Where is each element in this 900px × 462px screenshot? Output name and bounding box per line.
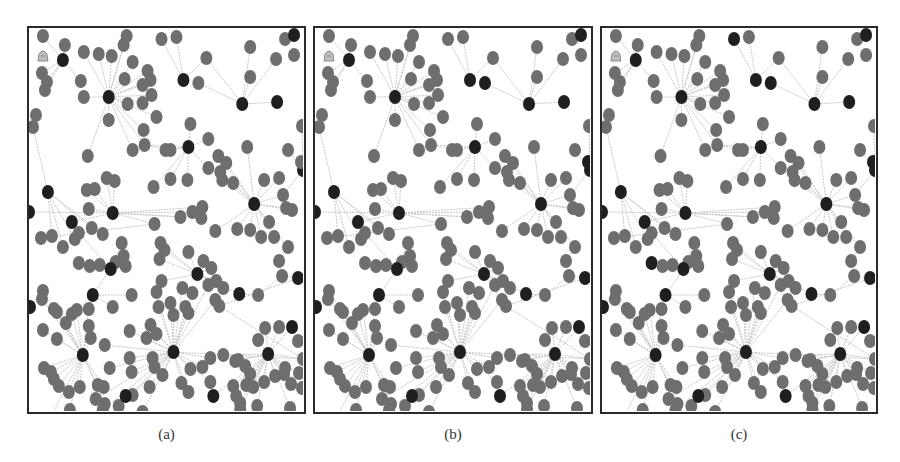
graph-node [182, 245, 194, 259]
graph-node-dark [582, 155, 590, 169]
graph-node [279, 361, 291, 375]
graph-node [755, 385, 767, 399]
graph-node [827, 230, 839, 244]
graph-node [644, 303, 656, 317]
graph-node-dark [860, 28, 872, 42]
graph-node [106, 49, 118, 63]
graph-node [37, 29, 49, 43]
graph-node [646, 226, 658, 240]
graph-hub-node [523, 97, 535, 111]
graph-node [273, 320, 285, 334]
graph-node [296, 119, 303, 133]
graph-node [97, 227, 109, 241]
graph-node [73, 256, 85, 270]
graph-node [29, 120, 39, 134]
graph-node [711, 138, 723, 152]
graph-node [154, 252, 166, 266]
graph-node [504, 348, 516, 362]
graph-node [865, 366, 875, 380]
graph-node [295, 155, 303, 169]
graph-node [370, 259, 382, 273]
graph-node [268, 230, 280, 244]
graph-hub-node [248, 197, 260, 211]
graph-node [665, 47, 677, 61]
graph-node-dark [765, 76, 777, 90]
graph-node-dark [692, 389, 704, 403]
graph-node [205, 261, 217, 275]
graph-edge [485, 83, 529, 104]
graph-node [461, 210, 473, 224]
graph-node [202, 132, 214, 146]
graph-node [773, 51, 785, 65]
graph-node [364, 45, 376, 59]
graph-node-dark [315, 300, 322, 314]
graph-node [849, 188, 861, 202]
graph-node [316, 108, 328, 122]
graph-node-dark [177, 73, 189, 87]
graph-hub-node [167, 345, 179, 359]
graph-node [252, 288, 264, 302]
graph-node [440, 252, 452, 266]
caption-b: (b) [423, 426, 483, 443]
graph-edge [602, 212, 685, 213]
graph-node [531, 223, 543, 237]
graph-node [819, 380, 831, 394]
graph-node [296, 381, 303, 395]
graph-node [227, 176, 239, 190]
graph-node [263, 215, 275, 229]
graph-node [126, 288, 138, 302]
graph-node [612, 83, 624, 97]
graph-node [637, 403, 649, 411]
graph-hub-node [262, 347, 274, 361]
graph-node [534, 380, 546, 394]
graph-node-dark [271, 95, 283, 109]
graph-node [518, 222, 530, 236]
graph-node [408, 97, 420, 111]
graph-node-dark [406, 389, 418, 403]
graph-node [164, 143, 176, 157]
graph-node [37, 323, 49, 337]
graph-node [239, 359, 251, 373]
graph-node [156, 32, 168, 46]
graph-node [694, 97, 706, 111]
graph-node-dark [120, 389, 132, 403]
graph-hub-node [389, 90, 401, 104]
graph-node [679, 300, 691, 314]
graph-node [688, 236, 700, 250]
graph-node-dark [292, 271, 303, 285]
graph-node [83, 302, 95, 316]
graph-node [569, 240, 581, 254]
graph-node [854, 240, 866, 254]
graph-node [390, 361, 402, 375]
graph-node [345, 38, 357, 52]
graph-node [658, 331, 670, 345]
graph-node-dark [29, 205, 35, 219]
graph-edge [113, 213, 155, 224]
graph-node [504, 281, 516, 295]
graph-node [492, 261, 504, 275]
graph-node [675, 113, 687, 127]
graph-node [323, 29, 335, 43]
graph-node [572, 377, 584, 391]
graph-node [78, 45, 90, 59]
graph-node [542, 230, 554, 244]
graph-node [410, 324, 422, 338]
graph-node [491, 351, 503, 365]
graph-node [349, 385, 361, 399]
graph-node [64, 403, 76, 411]
graph-node [321, 231, 333, 245]
graph-node [489, 278, 501, 292]
graph-node [813, 140, 825, 154]
graph-node [216, 173, 228, 187]
graph-node [252, 333, 264, 347]
graph-node [789, 173, 801, 187]
graph-node [571, 401, 583, 411]
graph-node [195, 211, 207, 225]
graph-node [182, 385, 194, 399]
graph-node [451, 296, 463, 310]
graph-hub-node [469, 140, 481, 154]
graph-node [723, 285, 735, 299]
graph-node [74, 380, 86, 394]
graph-node [81, 183, 93, 197]
graph-node [563, 269, 575, 283]
